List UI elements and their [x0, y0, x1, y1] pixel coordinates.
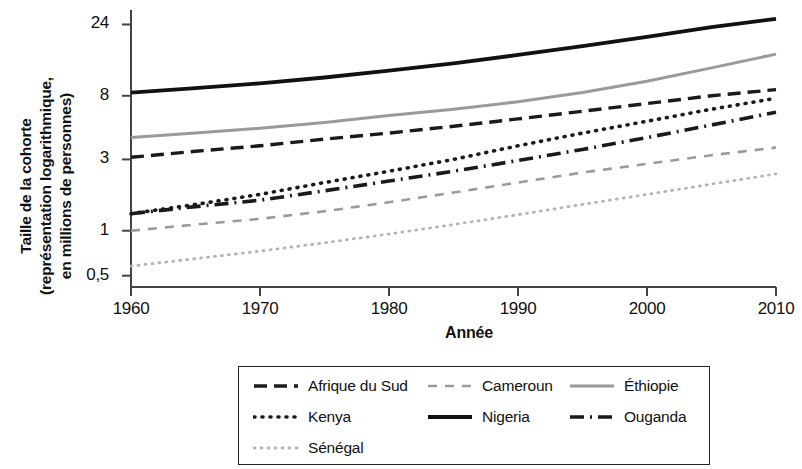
x-tick-label: 1970 [225, 299, 295, 319]
legend-swatch-ouganda [569, 410, 615, 424]
series-line-kenya [131, 98, 776, 213]
legend-item: Éthiopie [569, 371, 678, 400]
chart-legend: Afrique du SudCamerounÉthiopieKenyaNiger… [238, 366, 710, 465]
x-tick-label: 1960 [96, 299, 166, 319]
legend-item: Sénégal [253, 433, 363, 462]
legend-label: Afrique du Sud [308, 377, 408, 395]
legend-swatch-cameroun [427, 379, 473, 393]
legend-swatch-s-n-gal [253, 441, 299, 455]
legend-swatch-thiopie [569, 379, 615, 393]
series-line-nigeria [131, 19, 776, 93]
x-tick-label: 1980 [354, 299, 424, 319]
legend-swatch-afrique-du-sud [253, 379, 299, 393]
chart-figure: Taille de la cohorte (représentation log… [0, 0, 802, 469]
legend-item: Nigeria [427, 402, 530, 431]
series-line-s-n-gal [131, 174, 776, 266]
legend-label: Ouganda [624, 408, 686, 426]
x-axis-title: Année [0, 324, 802, 342]
legend-item: Cameroun [427, 371, 553, 400]
series-line-afrique-du-sud [131, 90, 776, 158]
legend-label: Éthiopie [624, 377, 678, 395]
x-tick-label: 2000 [612, 299, 682, 319]
y-tick-label: 8 [63, 85, 109, 105]
x-axis-title-text: Année [445, 324, 493, 341]
y-tick-label: 0,5 [63, 265, 109, 285]
legend-item: Afrique du Sud [253, 371, 408, 400]
legend-label: Nigeria [482, 408, 530, 426]
x-tick-label: 1990 [483, 299, 553, 319]
legend-label: Kenya [308, 408, 351, 426]
x-tick-label: 2010 [741, 299, 802, 319]
legend-swatch-kenya [253, 410, 299, 424]
legend-label: Cameroun [482, 377, 553, 395]
legend-label: Sénégal [308, 439, 363, 457]
y-tick-label: 1 [63, 220, 109, 240]
legend-item: Ouganda [569, 402, 686, 431]
y-tick-label: 24 [63, 13, 109, 33]
legend-swatch-nigeria [427, 410, 473, 424]
y-tick-label: 3 [63, 148, 109, 168]
legend-item: Kenya [253, 402, 351, 431]
